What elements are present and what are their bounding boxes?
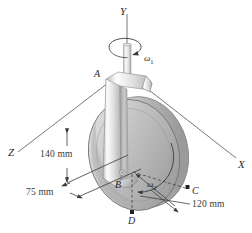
omega1-label: ω1 [144, 54, 154, 65]
dim-75-arrow-right [70, 193, 82, 198]
yoke-left-arm-inner [120, 86, 128, 180]
bearing-hub-b-bore [121, 171, 124, 174]
dimension-label-140: 140 mm [40, 150, 73, 160]
yoke-left-arm [103, 79, 121, 186]
dimension-label-120: 120 mm [192, 200, 225, 210]
point-label-b: B [115, 180, 121, 190]
axis-label-x: X [238, 159, 245, 170]
axis-label-y: Y [120, 6, 126, 17]
dim-75-arrow-left [62, 183, 70, 186]
figure-canvas: Y X Z A B C D ω1 ω2 140 mm 75 mm 120 mm [0, 0, 252, 233]
point-label-c: C [192, 186, 199, 196]
omega2-label: ω2 [147, 180, 157, 191]
dimension-label-75: 75 mm [26, 188, 54, 198]
point-label-a: A [94, 69, 100, 79]
omega1-subscript: 1 [150, 58, 153, 65]
axis-label-z: Z [8, 147, 14, 158]
marker-d [130, 210, 134, 214]
point-label-d: D [128, 216, 135, 226]
disk-assembly [77, 87, 200, 220]
marker-c [186, 185, 190, 189]
omega2-subscript: 2 [153, 184, 156, 191]
